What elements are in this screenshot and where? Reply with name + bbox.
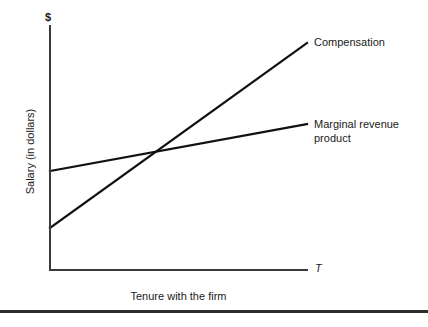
series-label-mrp-line-1: Marginal revenue bbox=[314, 118, 399, 130]
y-axis bbox=[49, 25, 51, 271]
series-label-mrp-line-2: product bbox=[314, 132, 351, 144]
y-axis-title: Salary (in dollars) bbox=[24, 92, 37, 212]
x-axis-title: Tenure with the firm bbox=[49, 290, 308, 303]
bottom-divider-rule bbox=[0, 310, 428, 313]
x-axis bbox=[49, 269, 308, 271]
y-axis-tip-label: $ bbox=[45, 11, 51, 23]
x-axis-tip-label: T bbox=[315, 262, 322, 274]
series-line-compensation bbox=[50, 43, 307, 228]
series-line-marginal-revenue-product bbox=[50, 124, 307, 171]
chart-figure: $ T Salary (in dollars) Tenure with the … bbox=[0, 0, 428, 327]
series-label-marginal-revenue-product: Marginal revenue product bbox=[314, 118, 422, 145]
series-label-compensation: Compensation bbox=[314, 36, 385, 50]
